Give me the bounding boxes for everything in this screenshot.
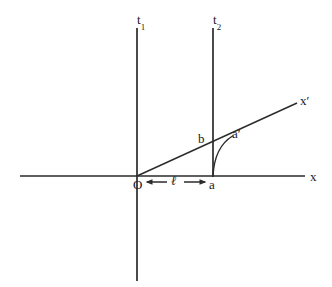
t1-axis-label-subscript: 1 [141, 22, 146, 32]
spacetime-diagram-figure: t1 t2 x x′ O a b a′ ℓ [0, 0, 332, 287]
point-b-label: b [198, 132, 205, 145]
x-axis-label: x [310, 170, 317, 183]
t2-axis-label-subscript: 2 [217, 22, 222, 32]
point-a-label: a [209, 178, 215, 191]
diagram-canvas [0, 0, 332, 287]
point-origin-label: O [133, 178, 142, 191]
x-prime-axis-label: x′ [300, 94, 309, 107]
t1-axis-label: t1 [137, 13, 145, 30]
t2-axis-label: t2 [213, 13, 221, 30]
worldline-arc-a-to-a-prime [213, 136, 233, 176]
point-a-prime-label: a′ [232, 127, 241, 140]
measure-arrow-right-head [200, 179, 207, 184]
measure-arrow-left-head [146, 179, 153, 184]
length-measure-label: ℓ [171, 174, 176, 187]
x-prime-axis-line [137, 103, 297, 176]
